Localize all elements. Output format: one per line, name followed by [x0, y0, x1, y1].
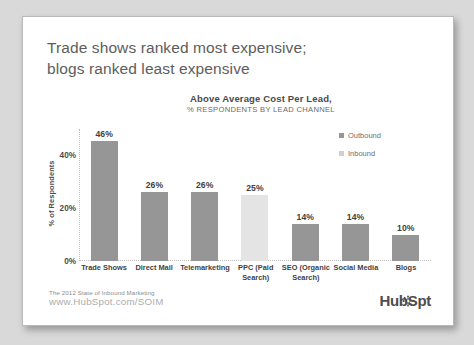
bar-value-label: 14%: [297, 212, 315, 222]
bar-blogs: [392, 235, 419, 261]
source-url: www.HubSpot.com/SOIM: [49, 296, 269, 307]
bar-group: 14%: [280, 129, 330, 261]
bar-group: 14%: [330, 129, 380, 261]
hubspot-logo: HubSp t: [379, 292, 431, 309]
bar-ppc-paid-search: [241, 195, 268, 261]
bar-value-label: 25%: [246, 183, 264, 193]
x-label-blogs: Blogs: [381, 263, 431, 282]
page-title: Trade shows ranked most expensive; blogs…: [47, 37, 427, 79]
headline-line-2: blogs ranked least expensive: [47, 58, 427, 79]
brand-wordmark-tail: t: [426, 292, 431, 309]
headline-line-1: Trade shows ranked most expensive;: [47, 39, 307, 56]
source-citation: The 2012 State of Inbound Marketing www.…: [49, 289, 269, 307]
bar-telemarketing: [191, 192, 218, 261]
bar-value-label: 26%: [146, 180, 164, 190]
chart-subtitle: % RESPONDENTS BY LEAD CHANNEL: [77, 105, 445, 114]
y-tick-1: 20%: [60, 204, 76, 213]
bar-group: 46%: [79, 129, 129, 261]
x-label-social-media: Social Media: [331, 263, 381, 282]
bar-group: 25%: [230, 129, 280, 261]
y-tick-0: 0%: [64, 257, 76, 266]
x-axis-labels: Trade Shows Direct Mail Telemarketing PP…: [79, 263, 431, 282]
sprocket-icon: [402, 293, 414, 305]
bar-group: 10%: [381, 129, 431, 261]
bar-value-label: 26%: [196, 180, 214, 190]
chart-title-main: Above Average Cost Per Lead,: [77, 93, 445, 104]
x-label-direct-mail: Direct Mail: [129, 263, 179, 282]
x-label-telemarketing: Telemarketing: [179, 263, 231, 282]
bar-series: 46% 26% 26% 25% 14%: [79, 129, 431, 261]
bar-social-media: [342, 224, 369, 261]
bar-value-label: 46%: [95, 129, 113, 139]
plot-area: 0% 20% 40% 46% 26% 26%: [79, 129, 431, 261]
chart-title: Above Average Cost Per Lead, % RESPONDEN…: [33, 93, 445, 114]
y-axis-ticks: 0% 20% 40%: [49, 129, 76, 261]
bar-seo-organic-search: [292, 224, 319, 261]
bar-chart: Above Average Cost Per Lead, % RESPONDEN…: [33, 93, 445, 293]
bar-direct-mail: [141, 192, 168, 261]
bar-value-label: 14%: [347, 212, 365, 222]
source-title: The 2012 State of Inbound Marketing: [49, 289, 269, 296]
y-tick-2: 40%: [60, 151, 76, 160]
x-label-trade-shows: Trade Shows: [79, 263, 129, 282]
slide-panel: Trade shows ranked most expensive; blogs…: [22, 16, 454, 326]
bar-trade-shows: [91, 141, 118, 261]
bar-group: 26%: [129, 129, 179, 261]
bar-group: 26%: [180, 129, 230, 261]
x-label-ppc-paid-search: PPC (Paid Search): [231, 263, 281, 282]
bar-value-label: 10%: [397, 223, 415, 233]
x-label-seo-organic-search: SEO (Organic Search): [281, 263, 331, 282]
